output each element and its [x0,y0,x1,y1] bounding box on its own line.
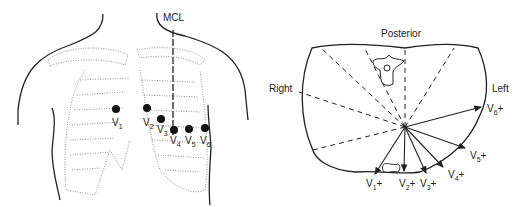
electrode-label-v1: V1 [112,117,123,130]
arrow-v5 [405,127,465,148]
electrode-v3 [157,115,165,123]
lead-label-v4: V4+ [448,169,465,182]
lead-label-v1: V1+ [366,178,383,191]
cross-section-outline [302,44,486,173]
lead-label-v3: V3+ [420,178,437,191]
electrode-v2 [143,104,151,112]
spinal-canal-icon [384,65,390,71]
electrode-label-v2: V2 [143,117,154,130]
arrow-v4 [405,127,443,167]
right-label: Right [269,83,293,94]
electrode-label-v4: V4 [170,135,181,148]
torso-outline-left [18,14,103,125]
mcl-label: MCL [163,12,185,23]
electrode-label-v5: V5 [185,135,196,148]
arm-line-right [208,105,211,205]
arrow-v1 [375,127,405,174]
electrode-v6 [201,124,209,132]
arrow-v2 [404,127,405,171]
cross-section-diagram: Posterior Right Left V1+ V2+ V3+ V4+ V5+… [269,28,509,191]
posterior-label: Posterior [381,28,422,39]
axis-lines [299,47,454,150]
lead-label-v5: V5+ [470,150,487,163]
left-label: Left [492,83,509,94]
lead-label-v6: V6+ [487,103,504,116]
electrode-v4 [170,126,178,134]
arrow-v3 [405,127,426,173]
ecg-lead-diagram: MCL V1 V2 V3 V4 V5 V6 Posterior Ri [0,0,522,207]
electrode-v1 [112,105,120,113]
chest-diagram: MCL V1 V2 V3 V4 V5 V6 [18,12,248,205]
arm-line-left [52,108,60,200]
sternum-icon [383,163,400,172]
arrow-v6 [405,107,481,127]
lead-label-v2: V2+ [399,178,416,191]
ribcage [48,48,207,195]
electrode-v5 [185,125,193,133]
electrode-label-v6: V6 [200,135,211,148]
torso-outline-right [157,13,248,120]
